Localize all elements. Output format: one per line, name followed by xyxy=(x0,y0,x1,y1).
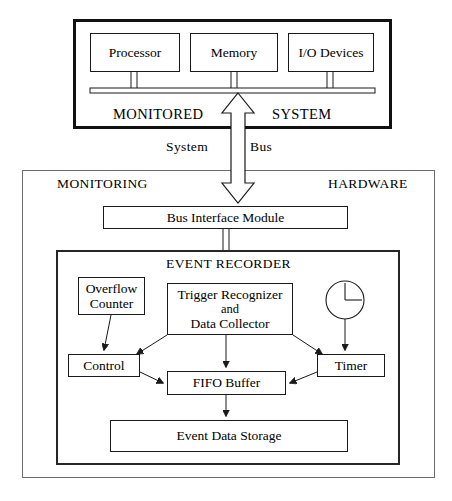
system-bus-bidirectional-arrow xyxy=(222,93,254,203)
diagram-canvas: Processor Memory I/O Devices MONITORED S… xyxy=(0,0,452,501)
memory-bus-drop xyxy=(231,72,237,88)
processor-bus-drop xyxy=(131,72,137,88)
io-devices-bus-drop xyxy=(327,72,333,88)
arrow-timer-to-fifo xyxy=(290,372,317,383)
clock-icon xyxy=(326,281,364,319)
bus-interface-to-event-recorder-link xyxy=(223,229,229,250)
arrow-overflow-to-control xyxy=(104,315,111,350)
connector-layer xyxy=(0,0,452,501)
arrow-trigger-to-control xyxy=(137,335,167,354)
system-bus-bar xyxy=(90,88,375,93)
arrow-control-to-fifo xyxy=(140,372,163,383)
arrow-trigger-to-timer xyxy=(293,335,322,354)
